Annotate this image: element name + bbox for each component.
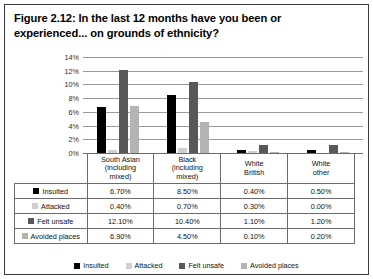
bar: [329, 145, 338, 153]
table-row: Insulted6.70%8.50%0.40%0.50%: [15, 184, 355, 199]
series-swatch-icon: [32, 203, 38, 209]
legend-item: Avoided places: [241, 261, 299, 270]
table-cell-value: 1.20%: [288, 214, 355, 229]
table-cell-value: 0.70%: [154, 199, 221, 214]
table-row: Felt unsafe12.10%10.40%1.10%1.20%: [15, 214, 355, 229]
table-row-label: Attacked: [15, 199, 88, 214]
table-cell-value: 0.30%: [221, 199, 288, 214]
chart-legend: InsultedAttackedFelt unsafeAvoided place…: [5, 261, 368, 270]
table-cell-value: 0.00%: [288, 199, 355, 214]
legend-item: Insulted: [74, 261, 108, 270]
legend-swatch-icon: [74, 263, 80, 269]
table-cell-value: 8.50%: [154, 184, 221, 199]
table-column-header: WhiteBritish: [221, 154, 288, 184]
legend-item: Attacked: [126, 261, 163, 270]
table-column-header: Whiteother: [288, 154, 355, 184]
data-table: South Asian(includingmixed)Black(includi…: [14, 153, 355, 244]
table-column-header: South Asian(includingmixed): [87, 154, 154, 184]
legend-label: Avoided places: [250, 261, 299, 270]
legend-label: Attacked: [135, 261, 163, 270]
legend-label: Insulted: [83, 261, 108, 270]
series-swatch-icon: [22, 233, 28, 239]
table-cell-value: 6.70%: [87, 184, 154, 199]
legend-swatch-icon: [126, 263, 132, 269]
legend-swatch-icon: [179, 263, 185, 269]
bar-group: [83, 57, 153, 153]
bar: [200, 122, 209, 153]
legend-item: Felt unsafe: [179, 261, 224, 270]
series-swatch-icon: [33, 188, 39, 194]
figure-title: Figure 2.12: In the last 12 months have …: [14, 11, 354, 41]
column-header-line: British: [221, 169, 287, 178]
series-name: Attacked: [41, 202, 69, 211]
series-swatch-icon: [28, 218, 34, 224]
table-cell-value: 0.20%: [288, 229, 355, 244]
table-cell-value: 10.40%: [154, 214, 221, 229]
bar-group: [293, 57, 363, 153]
table-row: Attacked0.40%0.70%0.30%0.00%: [15, 199, 355, 214]
column-header-line: mixed): [154, 173, 220, 182]
table-header-row: South Asian(includingmixed)Black(includi…: [15, 154, 355, 184]
chart-plot-area: 0%2%4%6%8%10%12%14%: [83, 57, 363, 153]
bar: [130, 106, 139, 153]
series-name: Avoided places: [31, 232, 80, 241]
y-axis-tick-label: 6%: [69, 107, 79, 116]
table-cell-value: 4.50%: [154, 229, 221, 244]
table-cell-value: 0.40%: [221, 184, 288, 199]
bar: [119, 70, 128, 153]
table-corner-cell: [15, 154, 88, 184]
bar-group: [153, 57, 223, 153]
bar: [167, 95, 176, 153]
legend-label: Felt unsafe: [188, 261, 224, 270]
figure-container: Figure 2.12: In the last 12 months have …: [4, 4, 369, 275]
bars-layer: [83, 57, 363, 153]
table-row-label: Felt unsafe: [15, 214, 88, 229]
bar-group: [223, 57, 293, 153]
series-name: Insulted: [42, 187, 68, 196]
table-cell-value: 12.10%: [87, 214, 154, 229]
y-axis-tick-label: 14%: [65, 53, 79, 62]
bar: [97, 107, 106, 153]
bar: [259, 145, 268, 153]
table-cell-value: 0.10%: [221, 229, 288, 244]
table-body: Insulted6.70%8.50%0.40%0.50%Attacked0.40…: [15, 184, 355, 244]
column-header-line: other: [288, 169, 354, 178]
table-column-header: Black(includingmixed): [154, 154, 221, 184]
column-header-line: mixed): [88, 173, 154, 182]
y-axis-tick-label: 4%: [69, 121, 79, 130]
table-row-label: Avoided places: [15, 229, 88, 244]
table-cell-value: 1.10%: [221, 214, 288, 229]
y-axis-tick-label: 2%: [69, 135, 79, 144]
y-axis-tick-label: 8%: [69, 94, 79, 103]
series-name: Felt unsafe: [37, 217, 73, 226]
table-row-label: Insulted: [15, 184, 88, 199]
table-cell-value: 0.40%: [87, 199, 154, 214]
y-axis-tick-label: 10%: [65, 80, 79, 89]
table-cell-value: 6.90%: [87, 229, 154, 244]
y-axis-tick-label: 12%: [65, 66, 79, 75]
bar: [189, 82, 198, 153]
legend-swatch-icon: [241, 263, 247, 269]
table-cell-value: 0.50%: [288, 184, 355, 199]
table-row: Avoided places6.90%4.50%0.10%0.20%: [15, 229, 355, 244]
